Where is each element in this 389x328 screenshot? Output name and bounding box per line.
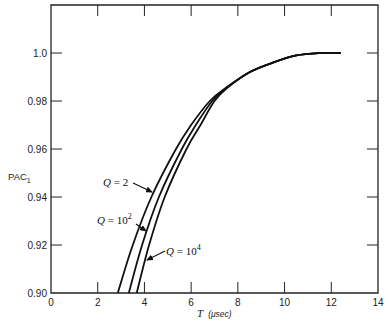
x-tick-label: 6 xyxy=(188,297,194,308)
y-tick-label: 0.96 xyxy=(28,144,48,155)
annotation-label: Q = 102 xyxy=(97,212,132,226)
x-tick-label: 12 xyxy=(326,297,338,308)
x-tick-label: 8 xyxy=(235,297,241,308)
y-tick-label: 1.0 xyxy=(33,48,47,59)
x-tick-label: 2 xyxy=(95,297,101,308)
y-tick-label: 0.92 xyxy=(28,240,48,251)
x-tick-label: 4 xyxy=(142,297,148,308)
x-axis-label: T(μsec) xyxy=(197,307,232,319)
y-axis-label: PAC1 xyxy=(8,171,31,184)
curve-q-2 xyxy=(118,53,341,293)
plot-border xyxy=(51,5,378,293)
x-tick-label: 10 xyxy=(279,297,291,308)
x-tick-label: 14 xyxy=(372,297,384,308)
y-axis-ticks: 0.900.920.940.960.981.0 xyxy=(28,48,378,299)
curve-q-10-2 xyxy=(129,53,341,293)
x-tick-label: 0 xyxy=(48,297,54,308)
annotation-arrow xyxy=(133,183,152,192)
annotation-label: Q = 2 xyxy=(103,176,128,188)
y-tick-label: 0.94 xyxy=(28,192,48,203)
plot-frame xyxy=(51,5,378,293)
x-axis-ticks: 02468101214 xyxy=(48,5,384,308)
annotation-arrow xyxy=(147,251,165,260)
y-tick-label: 0.98 xyxy=(28,96,48,107)
data-curves xyxy=(118,53,341,293)
pac-vs-t-chart: 02468101214 0.900.920.940.960.981.0 Q = … xyxy=(0,0,389,328)
annotation-label: Q = 104 xyxy=(166,243,201,257)
y-tick-label: 0.90 xyxy=(28,288,48,299)
